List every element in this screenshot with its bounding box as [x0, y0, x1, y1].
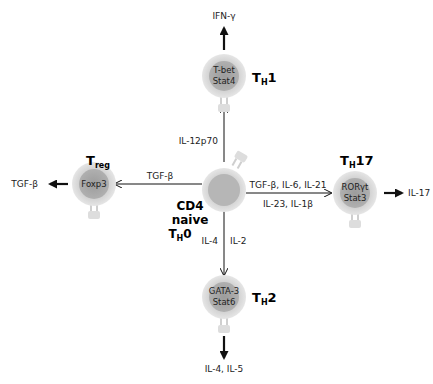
th1-title: TH1 [252, 70, 277, 87]
naive-cd4-cell [202, 150, 248, 212]
th2-title: TH2 [252, 290, 277, 307]
th2-output-label: IL-4, IL-5 [205, 364, 244, 374]
treg-tf-foxp3: Foxp3 [81, 179, 106, 189]
th17-title: TH17 [340, 153, 374, 170]
naive-label-cd4: CD4 [176, 199, 203, 213]
t-cell-differentiation-diagram: T-bet Stat4 TH1 IFN-γ IL-12p70 Foxp3 Tre… [0, 0, 433, 384]
th17-input-label-1: TGF-β, IL-6, IL-21 [249, 180, 327, 190]
treg-title: Treg [86, 153, 110, 170]
th2-input-label-2: IL-2 [230, 236, 246, 246]
th1-cell: T-bet Stat4 [202, 54, 246, 112]
th17-tf-stat3: Stat3 [344, 193, 367, 203]
naive-label-th0: TH0 [168, 227, 191, 243]
th2-tf-gata3: GATA-3 [209, 286, 239, 296]
th17-tf-rorgt: RORγt [342, 182, 370, 192]
th2-tf-stat6: Stat6 [213, 297, 236, 307]
th1-tf-tbet: T-bet [212, 65, 235, 75]
treg-cell: Foxp3 [72, 162, 116, 219]
th17-output-label: IL-17 [408, 188, 430, 198]
th1-output-label: IFN-γ [212, 11, 236, 21]
th2-cell: GATA-3 Stat6 [202, 275, 246, 333]
th2-input-label-1: IL-4 [202, 236, 219, 246]
th1-input-label: IL-12p70 [179, 136, 219, 146]
treg-output-label: TGF-β [10, 179, 38, 189]
naive-label-naive: naive [172, 213, 209, 227]
th1-tf-stat4: Stat4 [213, 76, 236, 86]
treg-input-label: TGF-β [146, 171, 174, 181]
th17-cell: RORγt Stat3 [333, 171, 377, 228]
th17-input-label-2: IL-23, IL-1β [263, 199, 313, 209]
